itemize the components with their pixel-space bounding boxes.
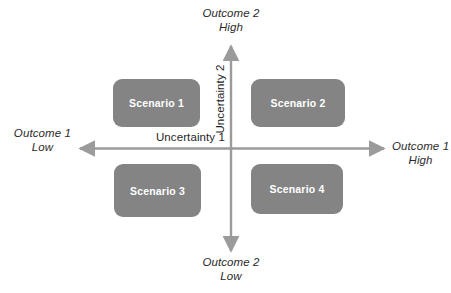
axis-label-outcome-2-high: Outcome 2 High	[202, 7, 259, 34]
scenario-box-4[interactable]: Scenario 4	[251, 164, 343, 214]
axis-label-outcome-1-high: Outcome 1 High	[392, 140, 449, 167]
axis-label-line-1: Outcome 1	[14, 127, 71, 141]
scenario-box-2[interactable]: Scenario 2	[251, 79, 345, 127]
scenario-matrix-diagram: Outcome 2 High Outcome 2 Low Outcome 1 L…	[0, 0, 451, 293]
scenario-box-3-label: Scenario 3	[130, 185, 185, 197]
scenario-box-2-label: Scenario 2	[270, 97, 325, 109]
axis-label-line-2: High	[202, 21, 259, 35]
scenario-box-3[interactable]: Scenario 3	[114, 164, 201, 217]
scenario-box-1[interactable]: Scenario 1	[113, 79, 200, 127]
scenario-box-1-label: Scenario 1	[129, 97, 184, 109]
axis-label-uncertainty-2: Uncertainty 2	[214, 64, 226, 133]
axis-label-line-1: Outcome 2	[202, 7, 259, 21]
scenario-box-4-label: Scenario 4	[269, 183, 324, 195]
axis-label-line-2: Low	[202, 270, 259, 284]
axis-label-outcome-1-low: Outcome 1 Low	[14, 127, 71, 154]
axis-label-line-1: Outcome 2	[202, 256, 259, 270]
axis-label-line-1: Outcome 1	[392, 140, 449, 154]
axis-label-outcome-2-low: Outcome 2 Low	[202, 256, 259, 283]
axis-label-line-2: Low	[14, 140, 71, 154]
axis-label-line-2: High	[392, 154, 449, 168]
